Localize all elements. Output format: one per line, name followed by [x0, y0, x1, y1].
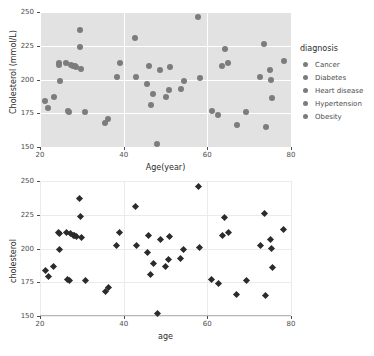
gridline-vertical: [40, 181, 41, 315]
data-point: [76, 195, 83, 202]
legend-item-obesity[interactable]: Obesity: [300, 110, 374, 123]
y-tick-label: 150: [21, 312, 34, 320]
legend-marker-icon: [300, 85, 311, 96]
y-tick-label: 225: [21, 42, 34, 50]
data-point: [222, 46, 228, 52]
data-point: [77, 27, 83, 33]
data-point: [42, 98, 48, 104]
data-point: [281, 58, 287, 64]
x-tick-label: 40: [114, 320, 134, 328]
data-point: [197, 75, 203, 81]
x-axis-title-bottom: age: [136, 332, 196, 341]
data-point: [146, 63, 152, 69]
y-tick-label: 200: [21, 76, 34, 84]
data-point: [82, 277, 89, 284]
data-point: [166, 87, 172, 93]
gridline-vertical: [124, 12, 125, 147]
data-point: [133, 74, 139, 80]
data-point: [195, 183, 202, 190]
data-point: [209, 108, 215, 114]
data-point: [78, 66, 84, 72]
y-tick-label: 150: [21, 143, 34, 151]
legend-diagnosis: diagnosis CancerDiabetesHeart diseaseHyp…: [300, 44, 374, 123]
x-tick-mark: [291, 147, 292, 150]
data-point: [267, 67, 273, 73]
legend-item-cancer[interactable]: Cancer: [300, 58, 374, 71]
data-point: [66, 277, 73, 284]
data-point: [225, 60, 231, 66]
legend-item-label: Obesity: [315, 113, 342, 121]
y-tick-mark: [37, 215, 40, 216]
legend-item-label: Cancer: [315, 61, 340, 69]
gridline-vertical: [291, 12, 292, 147]
gridline-vertical: [40, 12, 41, 147]
data-point: [147, 271, 154, 278]
data-point: [165, 256, 172, 263]
data-point: [117, 60, 123, 66]
y-tick-label: 175: [21, 278, 34, 286]
data-point: [132, 35, 138, 41]
legend-item-heart-disease[interactable]: Heart disease: [300, 84, 374, 97]
legend-marker-icon: [300, 59, 311, 70]
data-point: [280, 226, 287, 233]
data-point: [234, 122, 240, 128]
data-point: [268, 77, 274, 83]
gridline-horizontal: [40, 147, 291, 148]
gridline-vertical: [124, 181, 125, 315]
data-point: [166, 233, 173, 240]
x-tick-mark: [124, 316, 125, 319]
data-point: [243, 277, 250, 284]
legend-marker-icon: [300, 111, 311, 122]
data-point: [77, 234, 84, 241]
data-point: [116, 229, 123, 236]
data-point: [77, 44, 83, 50]
x-tick-mark: [291, 316, 292, 319]
gridline-horizontal: [40, 113, 291, 114]
data-point: [269, 95, 275, 101]
x-tick-label: 20: [30, 320, 50, 328]
gridline-horizontal: [40, 282, 291, 283]
data-point: [150, 91, 156, 97]
data-point: [157, 236, 164, 243]
y-tick-mark: [37, 181, 40, 182]
data-point: [195, 14, 201, 20]
x-tick-mark: [207, 147, 208, 150]
gridline-vertical: [291, 181, 292, 315]
x-tick-label: 80: [281, 151, 301, 159]
x-tick-label: 60: [197, 320, 217, 328]
legend-items: CancerDiabetesHeart diseaseHypertensionO…: [300, 58, 374, 123]
y-tick-label: 175: [21, 109, 34, 117]
gridline-vertical: [207, 181, 208, 315]
data-point: [177, 254, 184, 261]
gridline-horizontal: [40, 316, 291, 317]
data-point: [51, 94, 57, 100]
data-point: [105, 116, 111, 122]
x-tick-mark: [207, 316, 208, 319]
y-axis-title-bottom: cholesterol: [9, 239, 18, 283]
data-point: [181, 78, 187, 84]
y-axis-title-top: Cholesterol (mmol/L): [9, 30, 18, 114]
legend-marker-icon: [300, 98, 311, 109]
legend-item-hypertension[interactable]: Hypertension: [300, 97, 374, 110]
data-point: [219, 63, 225, 69]
gridline-horizontal: [40, 249, 291, 250]
data-point: [144, 81, 150, 87]
data-point: [145, 231, 152, 238]
x-tick-label: 60: [197, 151, 217, 159]
legend-item-label: Hypertension: [315, 100, 362, 108]
y-tick-mark: [37, 282, 40, 283]
data-point: [56, 230, 63, 237]
x-tick-mark: [40, 147, 41, 150]
data-point: [148, 102, 154, 108]
data-point: [57, 78, 63, 84]
data-point: [263, 124, 269, 130]
data-point: [149, 260, 156, 267]
x-axis-title-top: Age(year): [136, 163, 196, 172]
x-tick-label: 20: [30, 151, 50, 159]
x-tick-label: 80: [281, 320, 301, 328]
data-point: [269, 264, 276, 271]
plot-panel-bottom: [40, 181, 291, 316]
legend-item-diabetes[interactable]: Diabetes: [300, 71, 374, 84]
y-tick-mark: [37, 113, 40, 114]
data-point: [163, 94, 169, 100]
